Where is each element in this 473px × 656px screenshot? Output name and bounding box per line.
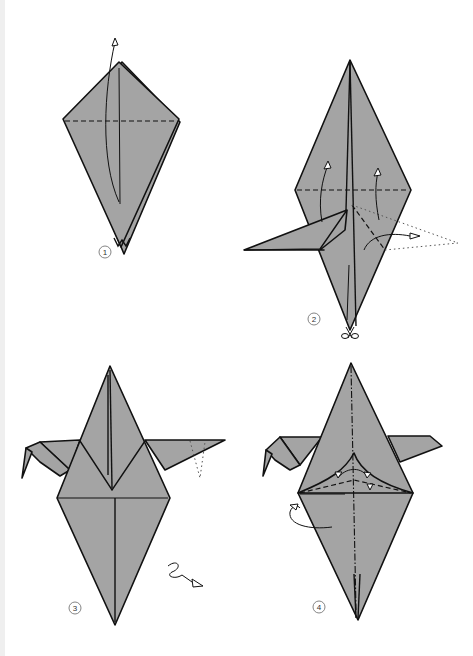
arrowhead-icon (192, 579, 203, 587)
step-3: 3 (22, 366, 225, 625)
step-number: 3 (73, 604, 78, 613)
arrowhead-icon (410, 233, 420, 239)
step-4: 4 (263, 363, 442, 620)
step3-body (57, 366, 170, 625)
step-number: 4 (317, 603, 322, 612)
step3-right-wing (145, 440, 225, 470)
origami-diagram: 1 2 (0, 0, 473, 656)
step-2: 2 (244, 60, 458, 339)
step4-beak (263, 450, 272, 476)
step-number: 2 (312, 315, 317, 324)
turn-over-arrow (168, 563, 192, 582)
step3-beak (22, 448, 32, 478)
step1-kite (63, 62, 179, 247)
step-number: 1 (103, 248, 108, 257)
arrowhead-icon (112, 38, 118, 46)
step-1: 1 (63, 38, 180, 258)
